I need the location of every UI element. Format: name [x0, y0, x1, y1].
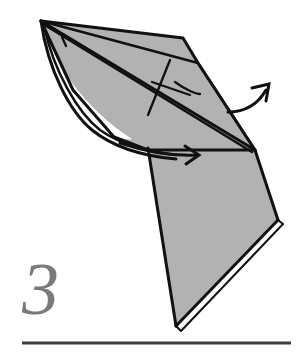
bottom-rule-layer — [0, 0, 307, 360]
diagram-page: 3 — [0, 0, 307, 360]
